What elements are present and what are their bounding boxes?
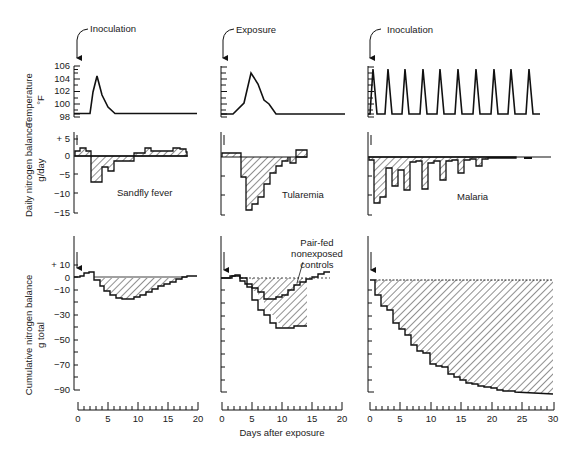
svg-text:10: 10 [133, 413, 144, 424]
svg-text:0: 0 [367, 413, 372, 424]
svg-text:0: 0 [65, 150, 70, 161]
daily-bars [75, 148, 187, 182]
svg-text:g/day: g/day [35, 158, 46, 181]
temperature-line [74, 76, 197, 114]
svg-text:nonexposed: nonexposed [291, 248, 343, 259]
x-tick-labels-tularemia: 0 5 10 15 20 [219, 413, 347, 424]
panel-label-malaria: Malaria [457, 191, 489, 202]
temperature-line [368, 69, 540, 114]
svg-text:20: 20 [337, 413, 348, 424]
svg-text:25: 25 [517, 413, 528, 424]
svg-text:20: 20 [193, 413, 204, 424]
daily-bars [369, 157, 516, 203]
svg-text:Inoculation: Inoculation [387, 24, 433, 35]
daily-tick-labels: + 5 0 −5 −10 −15 [54, 133, 70, 218]
panel-tularemia: Exposure Tularemia [219, 24, 347, 438]
svg-text:Daily nitrogen balance: Daily nitrogen balance [23, 123, 34, 217]
svg-text:+ 5: + 5 [57, 133, 70, 144]
x-tick-labels-malaria: 0 5 10 15 20 25 30 [367, 413, 558, 424]
svg-text:Inoculation: Inoculation [90, 23, 136, 34]
svg-text:5: 5 [397, 413, 402, 424]
svg-text:5: 5 [249, 413, 254, 424]
cumulative-tick-labels: + 10 0 −10 −30 −50 −70 −90 [51, 259, 70, 395]
svg-text:−5: −5 [59, 169, 70, 180]
daily-axis [74, 132, 78, 213]
svg-text:−15: −15 [54, 207, 70, 218]
svg-text:106: 106 [54, 60, 70, 71]
svg-text:g total: g total [35, 322, 46, 348]
svg-text:20: 20 [487, 413, 498, 424]
x-axis-label: Days after exposure [239, 427, 324, 438]
svg-text:102: 102 [54, 85, 70, 96]
controls-annotation: Pair-fed nonexposed controls [291, 237, 343, 270]
row-label-daily: Daily nitrogen balance g/day [23, 123, 46, 217]
svg-text:0: 0 [219, 413, 224, 424]
svg-text:Cumulative nitrogen balance: Cumulative nitrogen balance [23, 275, 34, 395]
svg-text:−50: −50 [54, 334, 70, 345]
cumulative-area [375, 280, 553, 394]
x-axis-malaria [370, 402, 554, 410]
x-tick-labels-sandfly: 0 5 10 15 20 [75, 413, 203, 424]
svg-text:−90: −90 [54, 384, 70, 395]
svg-text:15: 15 [456, 413, 467, 424]
svg-text:30: 30 [548, 413, 559, 424]
svg-text:15: 15 [307, 413, 318, 424]
svg-text:Pair-fed: Pair-fed [300, 237, 333, 248]
row-label-temperature: Temperature °F [23, 73, 46, 126]
panel-sandfly-fever: Inoculation Sandfly fever [74, 23, 203, 424]
svg-text:−30: −30 [54, 309, 70, 320]
daily-axis [368, 132, 372, 215]
panel-malaria: Inoculation Malaria [367, 24, 558, 424]
nitrogen-balance-figure: Temperature °F Daily nitrogen balance g/… [0, 0, 587, 454]
svg-text:5: 5 [105, 413, 110, 424]
temperature-axis [221, 66, 227, 117]
temperature-axis [74, 66, 80, 117]
row-label-cumulative: Cumulative nitrogen balance g total [23, 275, 46, 395]
x-axis-tularemia [222, 402, 342, 410]
svg-text:−10: −10 [54, 284, 70, 295]
temperature-tick-labels: 106 104 102 100 98 [54, 60, 70, 122]
panel-label-tularemia: Tularemia [282, 189, 325, 200]
svg-text:100: 100 [54, 98, 70, 109]
cumulative-axis [74, 236, 80, 390]
svg-text:10: 10 [426, 413, 437, 424]
svg-text:Temperature: Temperature [23, 73, 34, 126]
x-axis-sandfly [78, 402, 198, 410]
exposure-annotation: Exposure [223, 24, 276, 58]
svg-text:98: 98 [59, 111, 70, 122]
cumulative-axis [368, 236, 374, 392]
svg-text:+ 10: + 10 [51, 259, 70, 270]
svg-text:−10: −10 [54, 188, 70, 199]
inoculation-annotation: Inoculation [77, 23, 136, 58]
svg-text:10: 10 [277, 413, 288, 424]
daily-bars [222, 150, 307, 210]
svg-text:−70: −70 [54, 359, 70, 370]
svg-text:0: 0 [75, 413, 80, 424]
daily-axis [221, 132, 225, 215]
svg-text:controls: controls [300, 259, 334, 270]
cumulative-area [94, 278, 182, 299]
temperature-line [221, 73, 345, 114]
svg-text:0: 0 [65, 272, 70, 283]
svg-text:°F: °F [35, 95, 46, 105]
panel-label-sandfly-fever: Sandfly fever [117, 187, 172, 198]
inoculation-annotation: Inoculation [370, 24, 433, 58]
svg-text:104: 104 [54, 73, 70, 84]
cumulative-axis [221, 236, 227, 392]
svg-text:15: 15 [163, 413, 174, 424]
svg-text:Exposure: Exposure [236, 24, 276, 35]
